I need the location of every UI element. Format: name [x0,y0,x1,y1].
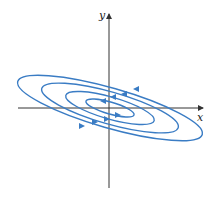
phase-portrait: x y [0,0,213,202]
arrow-left-icon [110,94,116,100]
arrow-right-icon [79,123,85,129]
arrow-left-icon [133,86,139,92]
arrow-left-icon [100,98,106,104]
x-axis-label: x [197,111,204,124]
y-axis-label: y [98,9,106,22]
arrow-right-icon [115,112,121,118]
